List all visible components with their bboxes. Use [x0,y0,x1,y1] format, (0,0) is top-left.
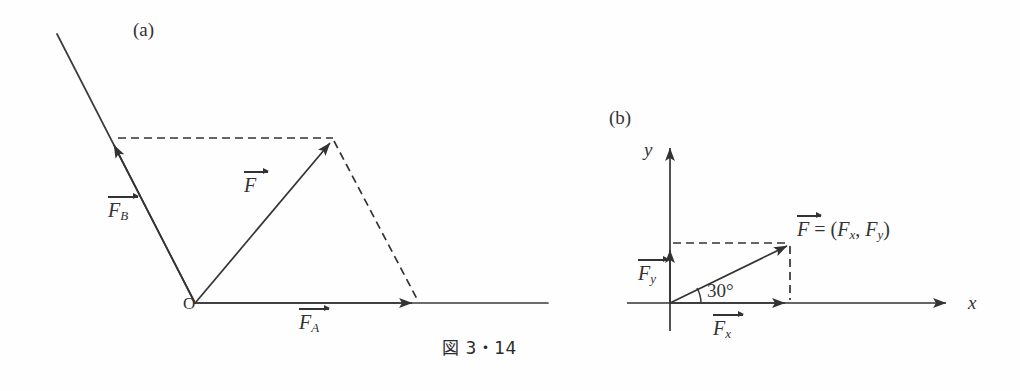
panel-a-origin-label: O [183,295,195,312]
panel-b-graphics [627,148,946,331]
component-separator: , [855,218,865,240]
vector-label-f-base: F [244,174,256,196]
vector-diagram-svg [0,0,1020,391]
resultant-close-paren: ) [883,218,890,240]
vector-label-fx: Fx [713,311,731,340]
angle-label-30deg: 30° [707,281,734,300]
vector-label-fb-sub: B [120,208,128,223]
physics-figure-3-14: (a) O FB F FA (b) y x 3 [0,0,1020,391]
resultant-components-label: F = (Fx, Fy) [797,212,890,241]
vector-label-fy-base: F [638,262,650,284]
vector-label-fa: FA [299,305,319,334]
vector-f-arrow [196,143,330,302]
component-x-symbol: F [837,218,849,240]
over-arrow-icon [299,305,329,312]
over-arrow-icon [797,212,821,219]
vector-label-fb-base: F [108,199,120,221]
resultant-symbol: F [797,218,809,240]
over-arrow-icon [108,193,138,200]
vector-label-fa-sub: A [311,320,319,335]
vector-label-f: F [244,168,256,197]
construction-dashed-right-a [334,141,417,299]
figure-caption: 図 3・14 [442,340,517,357]
vector-label-fb: FB [108,193,128,222]
vector-label-fy-sub: y [650,271,656,286]
vector-label-fa-base: F [299,311,311,333]
vector-label-fx-base: F [713,317,725,339]
over-arrow-icon [638,256,668,263]
panel-b-tag: (b) [609,108,631,127]
resultant-equals: = ( [809,218,837,240]
over-arrow-icon [713,311,743,318]
panel-a-graphics [57,34,548,303]
component-y-symbol: F [865,218,877,240]
x-axis-label: x [968,293,976,312]
vector-label-fy: Fy [638,256,656,285]
y-axis-label: y [644,140,652,159]
over-arrow-icon [244,168,268,175]
vector-label-fx-sub: x [725,326,731,341]
angle-arc-30 [697,288,701,303]
panel-a-tag: (a) [133,20,154,39]
vector-fb-arrow [114,145,195,303]
